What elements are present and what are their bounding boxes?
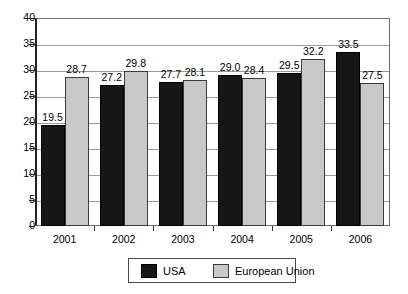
y-tick-mark	[29, 18, 35, 19]
bar-usa-2003	[159, 82, 183, 226]
y-tick-mark	[29, 96, 35, 97]
y-tick-label: 0	[13, 220, 35, 230]
y-tick-label: 10	[13, 168, 35, 178]
bar-usa-2001	[41, 125, 65, 226]
bar-value-label: 29.8	[119, 58, 153, 69]
x-tick-label-2003: 2003	[153, 233, 213, 245]
black-square-icon	[141, 264, 157, 278]
y-tick-mark	[29, 174, 35, 175]
x-tick-mark	[272, 226, 273, 231]
y-tick-label: 25	[13, 90, 35, 100]
y-tick-mark	[29, 70, 35, 71]
y-tick-label: 15	[13, 142, 35, 152]
bar-european-union-2004	[242, 78, 266, 226]
bar-usa-2005	[277, 73, 301, 226]
bar-value-label: 28.1	[178, 67, 212, 78]
y-tick-mark	[29, 200, 35, 201]
y-tick-label: 20	[13, 116, 35, 126]
bar-european-union-2001	[65, 77, 89, 226]
bar-value-label: 33.5	[331, 39, 365, 50]
bar-european-union-2006	[360, 83, 384, 226]
x-tick-mark	[331, 226, 332, 231]
x-tick-mark	[94, 226, 95, 231]
y-tick-mark	[29, 226, 35, 227]
y-tick-label: 40	[13, 12, 35, 22]
x-tick-mark	[213, 226, 214, 231]
chart-legend: USAEuropean Union	[128, 258, 296, 283]
x-tick-label-2001: 2001	[35, 233, 95, 245]
legend-item-european-union: European Union	[213, 263, 315, 279]
bar-european-union-2002	[124, 71, 148, 226]
y-tick-label: 30	[13, 64, 35, 74]
bar-value-label: 27.5	[355, 70, 389, 81]
y-tick-mark	[29, 122, 35, 123]
bar-value-label: 28.4	[237, 65, 271, 76]
bar-usa-2002	[100, 85, 124, 226]
bar-value-label: 28.7	[60, 64, 94, 75]
x-tick-mark	[153, 226, 154, 231]
bar-european-union-2003	[183, 80, 207, 226]
legend-item-usa: USA	[141, 263, 186, 279]
x-tick-label-2006: 2006	[330, 233, 390, 245]
bar-chart: 0510152025303540 19.528.727.229.827.728.…	[0, 0, 408, 294]
y-tick-label: 5	[13, 194, 35, 204]
legend-label: USA	[163, 265, 186, 277]
x-tick-label-2005: 2005	[271, 233, 331, 245]
bar-value-label: 32.2	[296, 46, 330, 57]
y-tick-label: 35	[13, 38, 35, 48]
x-tick-label-2002: 2002	[94, 233, 154, 245]
bar-european-union-2005	[301, 59, 325, 226]
bar-usa-2004	[218, 75, 242, 226]
gray-square-icon	[213, 264, 229, 278]
bars-layer: 19.528.727.229.827.728.129.028.429.532.2…	[35, 18, 390, 226]
y-tick-mark	[29, 148, 35, 149]
x-tick-label-2004: 2004	[212, 233, 272, 245]
y-tick-mark	[29, 44, 35, 45]
legend-label: European Union	[235, 265, 315, 277]
